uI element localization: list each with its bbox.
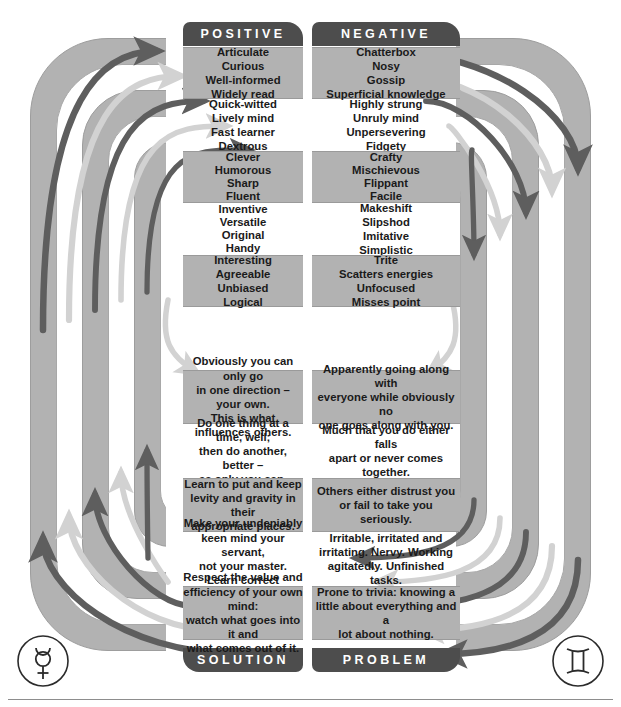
row-8-right-cell: Others either distrust youor fail to tak…	[312, 478, 460, 532]
trait-line: Prone to trivia: knowing a	[317, 585, 455, 599]
trait-line: Slipshod	[362, 215, 410, 229]
row-5-left-cell: InterestingAgreeableUnbiasedLogical	[183, 255, 303, 307]
trait-line: Crafty	[370, 151, 403, 164]
trait-line: Mischievous	[352, 164, 420, 177]
trait-line: everyone while obviously no	[312, 390, 460, 418]
mercury-symbol-icon	[16, 634, 70, 688]
trait-line: Interesting	[214, 253, 272, 267]
trait-line: efficiency of your own mind:	[183, 585, 303, 613]
trait-line: Fast learner	[211, 125, 275, 139]
row-1-right-cell: ChatterboxNosyGossipSuperficial knowledg…	[312, 47, 460, 99]
trait-line: Trite	[374, 253, 398, 267]
trait-line: Make your undeniably	[184, 516, 303, 530]
trait-line: agitatedly. Unfinished tasks.	[312, 559, 460, 587]
tab-negative: NEGATIVE	[312, 22, 460, 46]
row-5-right-cell: TriteScatters energiesUnfocusedMisses po…	[312, 255, 460, 307]
row-6-right-cell: Apparently going along witheveryone whil…	[312, 370, 460, 424]
trait-line: or fail to take you seriously.	[312, 498, 460, 526]
trait-line: Nosy	[372, 59, 400, 73]
footer-rule	[8, 699, 613, 700]
row-1-left-cell: ArticulateCuriousWell-informedWidely rea…	[183, 47, 303, 99]
trait-line: Logical	[223, 295, 263, 309]
trait-line: Inventive	[219, 203, 268, 216]
trait-line: Unbiased	[218, 281, 269, 295]
trait-line: Agreeable	[216, 267, 271, 281]
trait-line: Irritable, irritated and	[330, 531, 443, 545]
trait-line: Scatters energies	[339, 267, 433, 281]
trait-line: Unruly mind	[353, 111, 419, 125]
trait-line: Learn to put and keep	[184, 477, 301, 491]
trait-line: levity and gravity in their	[183, 491, 303, 519]
trait-line: irritating. Nervy. Working	[319, 545, 453, 559]
trait-line: Lively mind	[212, 111, 274, 125]
trait-line: Curious	[222, 59, 265, 73]
trait-line: then do another, better –	[183, 444, 303, 472]
trait-line: Misses point	[352, 295, 420, 309]
trait-line: Respect the value and	[183, 570, 302, 584]
row-3-right-cell: CraftyMischievousFlippantFacile	[312, 151, 460, 203]
trait-line: Original	[222, 229, 265, 242]
trait-line: lot about nothing.	[338, 627, 433, 641]
row-2-right-cell: Highly strungUnruly mindUnperseveringFid…	[312, 99, 460, 151]
trait-line: Unpersevering	[346, 125, 425, 139]
trait-line: Articulate	[217, 45, 269, 59]
trait-line: Flippant	[364, 177, 408, 190]
row-10-left-cell: Respect the value andefficiency of your …	[183, 586, 303, 640]
trait-line: Highly strung	[350, 97, 423, 111]
tab-problem: PROBLEM	[312, 648, 460, 672]
tab-positive: POSITIVE	[183, 22, 303, 46]
row-7-left-cell: Do one thing at a time, well;then do ano…	[183, 424, 303, 478]
row-9-right-cell: Irritable, irritated andirritating. Nerv…	[312, 532, 460, 586]
trait-line: Humorous	[215, 164, 272, 177]
row-4-right-cell: MakeshiftSlipshodImitativeSimplistic	[312, 203, 460, 255]
trait-line: in one direction – your own.	[183, 383, 303, 411]
trait-line: Versatile	[220, 216, 266, 229]
trait-line: Apparently going along with	[312, 362, 460, 390]
row-2-left-cell: Quick-wittedLively mindFast learnerDextr…	[183, 99, 303, 151]
content-layer: POSITIVENEGATIVESOLUTIONPROBLEMArticulat…	[0, 0, 621, 707]
trait-line: what comes out of it.	[187, 641, 299, 655]
trait-line: Quick-witted	[209, 97, 277, 111]
row-10-right-cell: Prone to trivia: knowing alittle about e…	[312, 586, 460, 640]
trait-line: Gossip	[367, 73, 405, 87]
mercury-gemini-diagram: POSITIVENEGATIVESOLUTIONPROBLEMArticulat…	[0, 0, 621, 707]
trait-line: Do one thing at a time, well;	[183, 416, 303, 444]
gemini-symbol-icon	[551, 634, 605, 688]
trait-line: watch what goes into it and	[183, 613, 303, 641]
row-3-left-cell: CleverHumorousSharpFluent	[183, 151, 303, 203]
trait-line: Clever	[226, 151, 261, 164]
trait-line: Imitative	[363, 229, 409, 243]
row-7-right-cell: Much that you do either fallsapart or ne…	[312, 424, 460, 478]
trait-line: Makeshift	[360, 201, 412, 215]
trait-line: Unfocused	[357, 281, 415, 295]
trait-line: keen mind your servant,	[183, 531, 303, 559]
trait-line: Chatterbox	[356, 45, 416, 59]
trait-line: Others either distrust you	[317, 484, 455, 498]
trait-line: Fluent	[226, 190, 260, 203]
trait-line: Well-informed	[205, 73, 280, 87]
trait-line: apart or never comes	[329, 451, 443, 465]
row-4-left-cell: InventiveVersatileOriginalHandy	[183, 203, 303, 255]
trait-line: Sharp	[227, 177, 259, 190]
trait-line: little about everything and a	[312, 599, 460, 627]
trait-line: Obviously you can only go	[183, 354, 303, 382]
trait-line: Much that you do either falls	[312, 423, 460, 451]
